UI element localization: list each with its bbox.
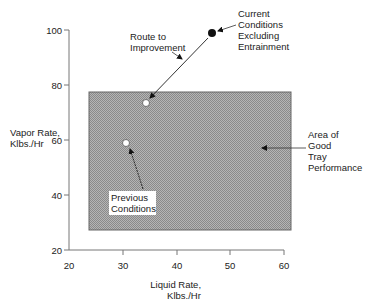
y-tick-40: 40: [51, 190, 62, 201]
good-area-label: Area of Good Tray Performance: [308, 129, 362, 173]
y-tick-20: 20: [51, 245, 62, 256]
x-tick-20: 20: [64, 260, 75, 271]
route-to-improvement-point: [143, 100, 150, 107]
x-tick-60: 60: [279, 260, 290, 271]
previous-conditions-label: Previous Conditions: [111, 192, 156, 214]
route-to-improvement-label: Route to Improvement: [130, 31, 186, 53]
y-tick-100: 100: [46, 25, 62, 36]
x-tick-40: 40: [172, 260, 183, 271]
previous-conditions-point: [123, 140, 130, 147]
route-label-arrow: [172, 52, 182, 59]
x-axis-label: Liquid Rate, Klbs./Hr: [150, 279, 203, 301]
current-conditions-point: [208, 29, 216, 37]
y-axis: 100 80 60 40 20: [46, 25, 69, 256]
x-tick-30: 30: [118, 260, 129, 271]
y-tick-80: 80: [51, 80, 62, 91]
current-conditions-label: Current Conditions Excluding Entrainment: [238, 8, 290, 52]
current-label-arrow: [218, 25, 236, 31]
tray-performance-chart: 100 80 60 40 20 20 30 40 50 60 Vapor Rat…: [0, 0, 369, 304]
x-tick-50: 50: [225, 260, 236, 271]
x-axis: 20 30 40 50 60: [64, 250, 290, 271]
